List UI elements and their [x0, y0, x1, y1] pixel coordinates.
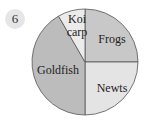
label-carp: carp: [64, 26, 90, 38]
label-newts: Newts: [90, 82, 134, 94]
label-frogs: Frogs: [92, 33, 132, 45]
label-koi: Koi: [66, 13, 88, 25]
label-goldfish: Goldfish: [33, 64, 83, 76]
